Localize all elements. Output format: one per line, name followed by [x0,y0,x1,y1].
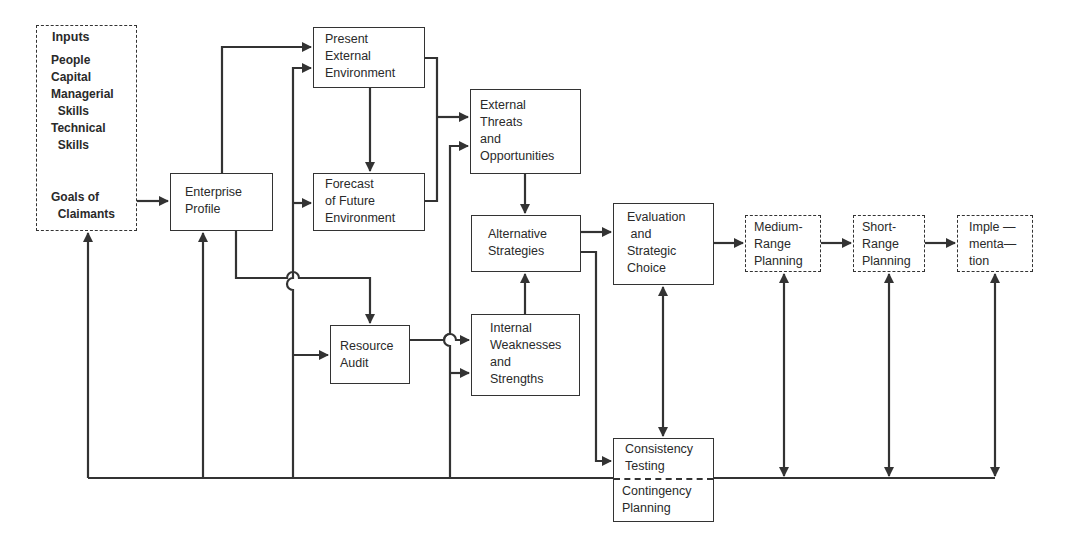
implementation-label: Imple — menta— tion [969,219,1016,270]
edge-feedback-to-threats [444,146,468,478]
node-consistency: Consistency Testing Contingency Planning [613,438,714,522]
edge-alternative-to-consistency [581,252,611,461]
resource-audit-label: Resource Audit [340,338,394,372]
edge-enterprise-to-resource [236,230,370,323]
node-external-threats: External Threats and Opportunities [470,89,581,174]
node-inputs: Inputs People Capital Managerial Skills … [36,25,137,231]
enterprise-profile-label: Enterprise Profile [185,184,242,218]
node-resource-audit: Resource Audit [330,325,410,384]
inputs-items: People Capital Managerial Skills Technic… [51,52,114,154]
node-enterprise-profile: Enterprise Profile [170,173,273,231]
edge-enterprise-to-present [222,47,311,173]
node-forecast-future: Forecast of Future Environment [313,173,425,231]
inputs-goals: Goals of Claimants [51,189,115,223]
node-evaluation: Evaluation and Strategic Choice [613,203,714,285]
medium-range-label: Medium- Range Planning [754,219,803,270]
node-present-external: Present External Environment [313,27,425,88]
present-external-label: Present External Environment [325,31,395,82]
node-short-range: Short- Range Planning [853,215,925,272]
edge-resource-to-internal [410,334,469,340]
alternative-strategies-label: Alternative Strategies [488,226,547,260]
contingency-label: Contingency Planning [622,483,692,517]
consistency-divider [614,478,713,480]
internal-weaknesses-label: Internal Weaknesses and Strengths [490,320,561,388]
inputs-heading: Inputs [52,29,90,46]
diagram-canvas: Inputs People Capital Managerial Skills … [0,0,1067,555]
node-alternative-strategies: Alternative Strategies [471,215,581,272]
forecast-future-label: Forecast of Future Environment [325,176,395,227]
external-threats-label: External Threats and Opportunities [480,97,554,165]
node-medium-range: Medium- Range Planning [745,215,821,272]
edge-present-to-threats [425,58,437,201]
evaluation-label: Evaluation and Strategic Choice [627,209,685,277]
node-internal-weaknesses: Internal Weaknesses and Strengths [471,314,580,396]
connector-layer [0,0,1067,555]
node-implementation: Imple — menta— tion [957,215,1033,272]
consistency-label: Consistency Testing [625,441,693,475]
short-range-label: Short- Range Planning [862,219,911,270]
